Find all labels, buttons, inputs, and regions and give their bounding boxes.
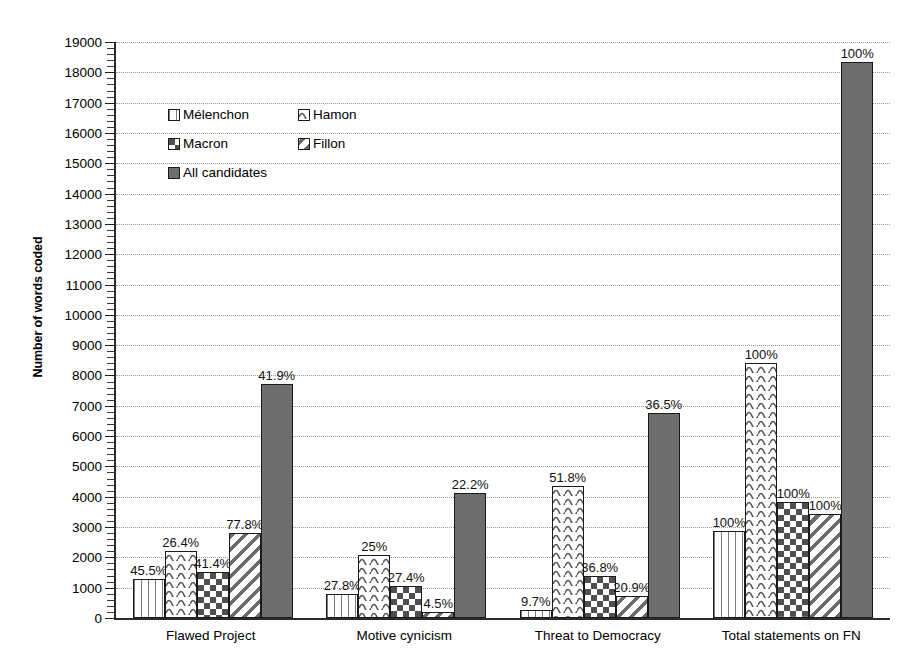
y-axis-minor-tick xyxy=(107,454,114,455)
y-axis-major-tick xyxy=(105,527,114,528)
bar[interactable]: 100% xyxy=(713,531,745,618)
bar[interactable]: 9.7% xyxy=(520,610,552,618)
y-axis-tick-label: 5000 xyxy=(32,459,102,474)
legend-item[interactable]: Fillon xyxy=(298,136,345,151)
bar-data-label: 41.4% xyxy=(194,556,231,571)
y-axis-minor-tick xyxy=(107,363,114,364)
bar-data-label: 51.8% xyxy=(549,470,586,485)
bar[interactable]: 100% xyxy=(777,502,809,618)
bar-fill-pattern xyxy=(778,503,808,617)
y-axis-minor-tick xyxy=(107,303,114,304)
bar-fill-pattern xyxy=(359,556,389,617)
y-axis-major-tick xyxy=(105,285,114,286)
y-axis-tick-label: 17000 xyxy=(32,95,102,110)
bar[interactable]: 41.4% xyxy=(197,572,229,618)
bar-group: 100%100%100%100%100% xyxy=(697,42,891,618)
bar-fill-pattern xyxy=(553,487,583,617)
bar-data-label: 4.5% xyxy=(423,596,453,611)
y-axis-minor-tick xyxy=(107,218,114,219)
y-axis-minor-tick xyxy=(107,212,114,213)
bar[interactable]: 45.5% xyxy=(133,579,165,618)
y-axis-tick-label: 8000 xyxy=(32,368,102,383)
legend-swatch-icon xyxy=(298,138,310,150)
legend-item[interactable]: Hamon xyxy=(298,107,357,122)
bar-chart: Number of words coded 010002000300040005… xyxy=(0,0,909,671)
bar[interactable]: 20.9% xyxy=(616,596,648,618)
y-axis-minor-tick xyxy=(107,248,114,249)
y-axis-minor-tick xyxy=(107,60,114,61)
bar-fill-pattern xyxy=(391,587,421,617)
y-axis-minor-tick xyxy=(107,442,114,443)
y-axis-minor-tick xyxy=(107,569,114,570)
bar[interactable]: 100% xyxy=(809,514,841,618)
chart-legend: MélenchonHamonMacronFillonAll candidates xyxy=(168,100,408,187)
bar[interactable]: 51.8% xyxy=(552,486,584,618)
y-axis-minor-tick xyxy=(107,115,114,116)
y-axis-minor-tick xyxy=(107,382,114,383)
y-axis-minor-tick xyxy=(107,424,114,425)
legend-item[interactable]: Mélenchon xyxy=(168,107,298,122)
bar[interactable]: 100% xyxy=(841,62,873,618)
y-axis-tick-label: 19000 xyxy=(32,35,102,50)
y-axis-minor-tick xyxy=(107,388,114,389)
y-axis-major-tick xyxy=(105,133,114,134)
x-axis-category-label: Flawed Project xyxy=(114,628,308,643)
y-axis-minor-tick xyxy=(107,357,114,358)
y-axis-major-tick xyxy=(105,315,114,316)
y-axis-minor-tick xyxy=(107,551,114,552)
y-axis-minor-tick xyxy=(107,200,114,201)
bar[interactable]: 27.4% xyxy=(390,586,422,618)
bar[interactable]: 4.5% xyxy=(422,612,454,618)
bar[interactable]: 27.8% xyxy=(326,594,358,618)
bar[interactable]: 25% xyxy=(358,555,390,618)
bar-slot: 22.2% xyxy=(454,42,486,618)
bar-data-label: 100% xyxy=(777,486,810,501)
bar[interactable]: 100% xyxy=(745,363,777,618)
y-axis-major-tick xyxy=(105,254,114,255)
y-axis-minor-tick xyxy=(107,418,114,419)
x-axis-category-label: Motive cynicism xyxy=(308,628,502,643)
y-axis-minor-tick xyxy=(107,278,114,279)
y-axis-minor-tick xyxy=(107,448,114,449)
legend-label: Mélenchon xyxy=(183,107,249,122)
y-axis-tick-label: 3000 xyxy=(32,520,102,535)
bar-fill-pattern xyxy=(166,552,196,617)
y-axis-minor-tick xyxy=(107,582,114,583)
bar-slot: 4.5% xyxy=(422,42,454,618)
bar-slot: 100% xyxy=(841,42,873,618)
bar[interactable]: 36.8% xyxy=(584,576,616,618)
y-axis-minor-tick xyxy=(107,485,114,486)
bar[interactable]: 77.8% xyxy=(229,533,261,618)
bar[interactable]: 41.9% xyxy=(261,384,293,618)
bar[interactable]: 36.5% xyxy=(648,413,680,618)
y-axis-minor-tick xyxy=(107,321,114,322)
bar-fill-pattern xyxy=(299,110,309,120)
y-axis-major-tick xyxy=(105,588,114,589)
bar-data-label: 27.8% xyxy=(324,578,361,593)
legend-label: All candidates xyxy=(183,165,267,180)
y-axis-tick-label: 1000 xyxy=(32,580,102,595)
y-axis-major-tick xyxy=(105,497,114,498)
y-axis-minor-tick xyxy=(107,84,114,85)
bar-slot: 51.8% xyxy=(552,42,584,618)
bar-group: 9.7%51.8%36.8%20.9%36.5% xyxy=(503,42,697,618)
y-axis-tick-label: 15000 xyxy=(32,156,102,171)
bar[interactable]: 26.4% xyxy=(165,551,197,618)
y-axis-minor-tick xyxy=(107,266,114,267)
bar-group-bars: 9.7%51.8%36.8%20.9%36.5% xyxy=(520,42,680,618)
bar-data-label: 22.2% xyxy=(452,477,489,492)
legend-item[interactable]: All candidates xyxy=(168,165,298,180)
bar-slot: 36.8% xyxy=(584,42,616,618)
legend-item[interactable]: Macron xyxy=(168,136,298,151)
y-axis-minor-tick xyxy=(107,66,114,67)
y-axis-minor-tick xyxy=(107,181,114,182)
y-axis-minor-tick xyxy=(107,54,114,55)
bar-data-label: 25% xyxy=(361,539,387,554)
legend-row: MacronFillon xyxy=(168,129,408,158)
y-axis-minor-tick xyxy=(107,236,114,237)
y-axis-minor-tick xyxy=(107,339,114,340)
bar-fill-pattern xyxy=(198,573,228,617)
y-axis-minor-tick xyxy=(107,206,114,207)
y-axis-minor-tick xyxy=(107,472,114,473)
bar[interactable]: 22.2% xyxy=(454,493,486,618)
